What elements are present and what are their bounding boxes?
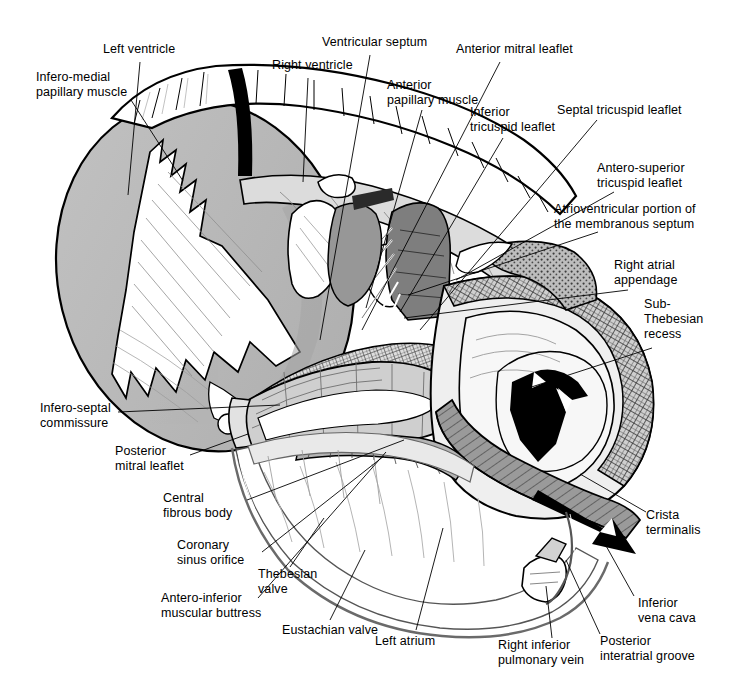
label-septal-tricuspid-leaflet: Septal tricuspid leaflet [557,103,682,118]
label-right-atrial-appendage: Right atrial appendage [614,258,677,288]
label-anterior-mitral-leaflet: Anterior mitral leaflet [456,42,573,57]
label-coronary-sinus-orifice: Coronary sinus orifice [177,538,244,568]
right-inferior-pulmonary-vein [522,538,566,602]
illustration-body [19,55,653,638]
label-inferior-vena-cava: Inferior vena cava [638,596,696,626]
label-infero-septal-commissure: Infero-septal commissure [40,401,111,431]
label-antero-superior-tricuspid-leaflet: Antero-superior tricuspid leaflet [597,161,685,191]
label-anterior-papillary-muscle: Anterior papillary muscle [387,78,478,108]
label-infero-medial-papillary-muscle: Infero-medial papillary muscle [36,70,127,100]
label-right-ventricle: Right ventricle [272,58,353,73]
label-ventricular-septum: Ventricular septum [322,35,427,50]
leader-coronary-sinus-orifice [262,456,384,552]
label-posterior-mitral-leaflet: Posterior mitral leaflet [115,444,184,474]
label-left-ventricle: Left ventricle [103,42,175,57]
label-atrioventricular-portion-membranous-septum: Atrioventricular portion of the membrano… [554,202,696,232]
label-antero-inferior-muscular-buttress: Antero-inferior muscular buttress [161,591,261,621]
label-eustachian-valve: Eustachian valve [282,623,378,638]
anatomy-figure: Left ventricleInfero-medial papillary mu… [0,0,731,698]
label-right-inferior-pulmonary-vein: Right inferior pulmonary vein [498,638,584,668]
label-left-atrium: Left atrium [375,634,435,649]
label-crista-terminalis: Crista terminalis [646,508,701,538]
label-thebesian-valve: Thebesian valve [258,567,317,597]
label-sub-thebesian-recess: Sub- Thebesian recess [644,297,703,342]
label-posterior-interatrial-groove: Posterior interatrial groove [600,634,695,664]
label-inferior-tricuspid-leaflet: Inferior tricuspid leaflet [470,105,555,135]
label-central-fibrous-body: Central fibrous body [163,491,232,521]
